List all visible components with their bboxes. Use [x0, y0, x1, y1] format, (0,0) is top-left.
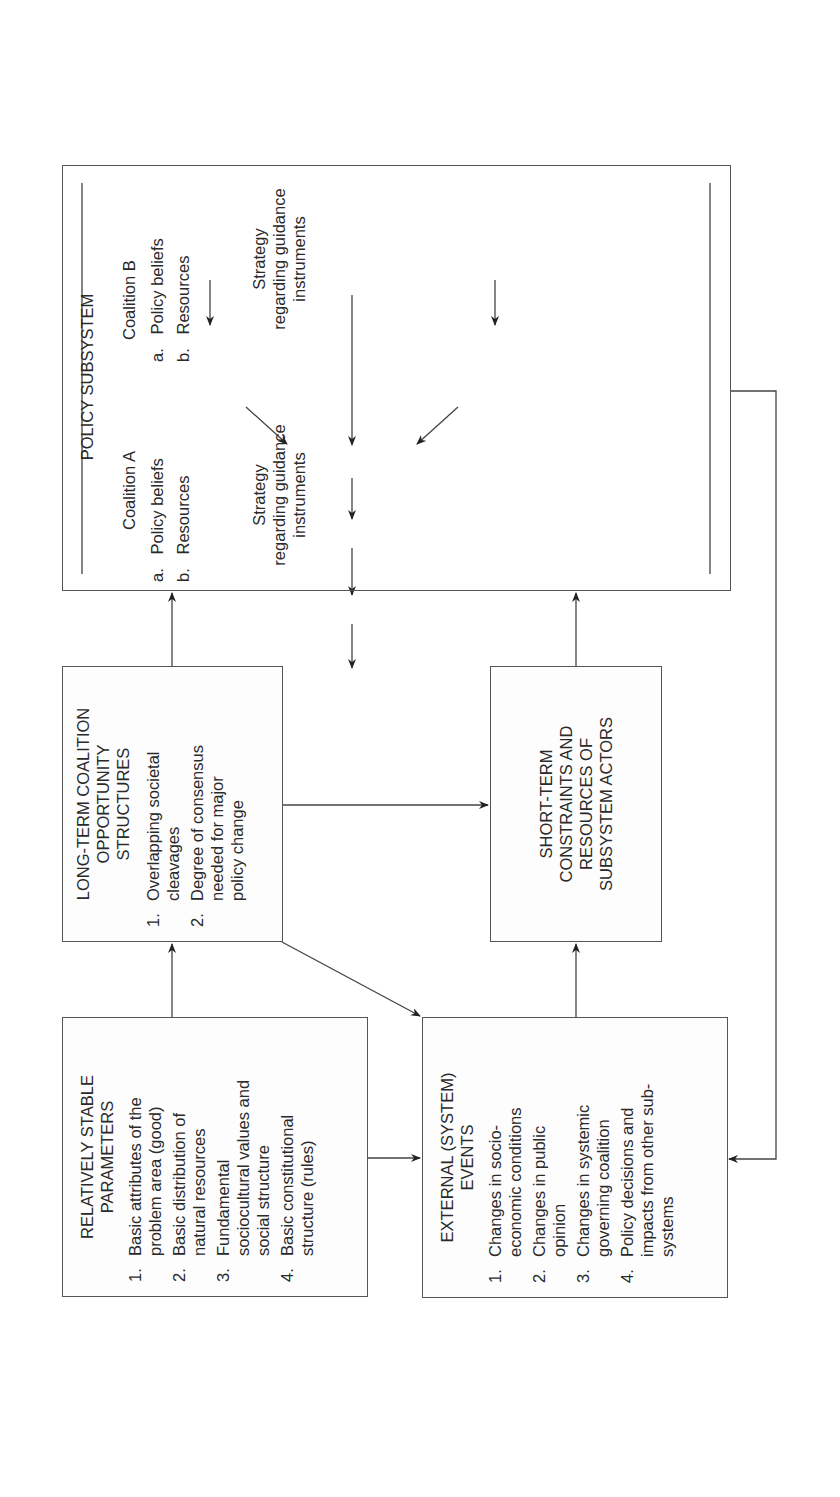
- box-title: STRUCTURES: [113, 667, 133, 941]
- box-title: RELATIVELY STABLE: [77, 1018, 97, 1296]
- list-item: 2.Basic distribution ofnatural resources: [169, 1021, 209, 1286]
- list-item: 4.Basic constitutionalstructure (rules): [277, 1021, 317, 1286]
- box-title: RESOURCES OF: [576, 667, 596, 941]
- relatively-stable-parameters-box: RELATIVELY STABLE PARAMETERS 1.Basic att…: [62, 1017, 368, 1297]
- policy-subsystem-content: [62, 0, 487, 591]
- long-term-coalition-opportunity-structures-box: LONG-TERM COALITION OPPORTUNITY STRUCTUR…: [62, 666, 283, 942]
- box-title: SUBSYSTEM ACTORS: [596, 667, 616, 941]
- list-item: 1.Basic attributes of theproblem area (g…: [125, 1021, 165, 1286]
- list-item: 1.Changes in socio-economic conditions: [485, 1022, 525, 1287]
- box-title: LONG-TERM COALITION: [73, 667, 93, 941]
- box-title: PARAMETERS: [97, 1018, 117, 1296]
- box-title: EVENTS: [457, 1018, 477, 1297]
- list-item: 2.Changes in publicopinion: [529, 1022, 569, 1287]
- short-term-constraints-box: SHORT-TERM CONSTRAINTS AND RESOURCES OF …: [490, 666, 662, 942]
- box-title: SHORT-TERM: [536, 667, 556, 941]
- box-title: CONSTRAINTS AND: [556, 667, 576, 941]
- list-item: 2.Degree of consensusneeded for majorpol…: [187, 671, 247, 931]
- list-item: 3.Fundamentalsociocultural values andsoc…: [213, 1021, 273, 1286]
- box-title: EXTERNAL (SYSTEM): [437, 1018, 457, 1297]
- list-item: 1.Overlapping societalcleavages: [143, 671, 183, 931]
- external-system-events-box: EXTERNAL (SYSTEM) EVENTS 1.Changes in so…: [422, 1017, 728, 1298]
- list-item: 3.Changes in systemicgoverning coalition: [573, 1022, 613, 1287]
- list-item: 4.Policy decisions andimpacts from other…: [617, 1022, 677, 1287]
- box-title: OPPORTUNITY: [93, 667, 113, 941]
